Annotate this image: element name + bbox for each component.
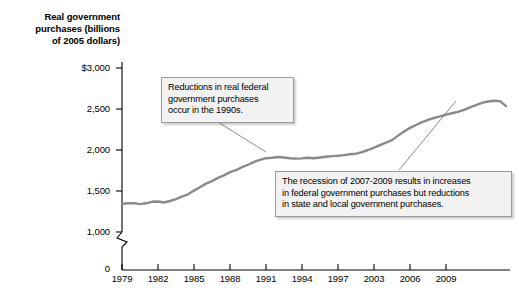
callout-recession-line-1: The recession of 2007-2009 results in in… [282, 176, 505, 188]
y-tick-label-1000: 1,000 [54, 227, 110, 237]
x-axis-ticks [122, 264, 446, 270]
callout-recession-line-3: in state and local government purchases. [282, 199, 505, 211]
x-tick-label-1988: 1988 [210, 274, 250, 284]
x-tick-label-2003: 2006 [390, 274, 430, 284]
y-axis-ticks [116, 68, 122, 232]
y-tick-label-1500: 1,500 [54, 186, 110, 196]
axis-break-mark [117, 232, 127, 247]
x-tick-label-1991: 1991 [246, 274, 286, 284]
y-tick-label-2500: 2,500 [54, 104, 110, 114]
y-tick-label-0: 0 [54, 264, 110, 274]
x-tick-label-1982: 1982 [138, 274, 178, 284]
annotation-callout-1990s: Reductions in real federal government pu… [161, 77, 294, 123]
y-tick-label-3000: $3,000 [54, 63, 110, 73]
y-tick-label-2000: 2,000 [54, 145, 110, 155]
x-tick-label-2006: 2009 [426, 274, 466, 284]
x-tick-label-1994: 1994 [282, 274, 322, 284]
callout-1990s-line-1: Reductions in real federal [168, 82, 287, 94]
callout-recession-line-2: in federal government purchases but redu… [282, 188, 505, 200]
annotation-callout-recession: The recession of 2007-2009 results in in… [275, 171, 512, 217]
callout-1990s-line-2: government purchases [168, 94, 287, 106]
x-tick-label-2000: 2003 [354, 274, 394, 284]
x-tick-label-1979: 1979 [102, 274, 142, 284]
callout-leader-line-1990s [213, 119, 266, 152]
callout-1990s-line-3: occur in the 1990s. [168, 105, 287, 117]
callout-leader-line-recession [399, 101, 456, 170]
x-tick-label-1997: 1997 [318, 274, 358, 284]
x-tick-label-1985: 1985 [174, 274, 214, 284]
chart-figure: Real government purchases (billions of 2… [0, 0, 519, 295]
